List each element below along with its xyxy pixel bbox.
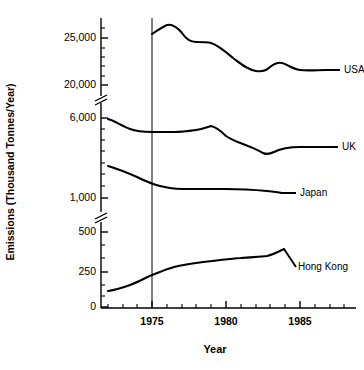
x-axis-major-ticks — [152, 301, 300, 308]
series-line-usa — [152, 25, 326, 71]
x-tick-label: 1980 — [214, 315, 238, 327]
series-leader-hong-kong — [284, 249, 296, 267]
series-hong-kong: Hong Kong — [108, 249, 348, 291]
series-line-uk — [108, 119, 322, 154]
y-axis-title-text: Emissions (Thousand Tonnes/Year) — [4, 83, 16, 260]
y-tick-label: 1,000 — [70, 191, 96, 203]
y-tick-label: 20,000 — [64, 78, 96, 90]
x-axis: 1975 1980 1985 Year — [101, 301, 356, 355]
y-axis: 25,000 20,000 6,000 1,000 500 250 0 — [64, 18, 108, 312]
y-axis-major-ticks — [101, 38, 108, 307]
series-uk: UK — [108, 119, 356, 154]
chart-canvas: Emissions (Thousand Tonnes/Year) — [0, 0, 364, 370]
series-usa: USA — [152, 25, 364, 75]
series-japan: Japan — [108, 166, 327, 198]
x-axis-title-text: Year — [203, 343, 227, 355]
x-axis-tick-labels: 1975 1980 1985 — [140, 315, 312, 327]
series-label-japan: Japan — [300, 187, 327, 198]
x-tick-label: 1975 — [140, 315, 164, 327]
series-label-uk: UK — [342, 141, 356, 152]
series-line-japan — [108, 166, 282, 193]
y-tick-label: 6,000 — [70, 111, 96, 123]
y-tick-label: 0 — [90, 300, 96, 312]
x-tick-label: 1985 — [288, 315, 312, 327]
y-axis-title: Emissions (Thousand Tonnes/Year) — [4, 83, 16, 260]
y-tick-label: 500 — [78, 225, 96, 237]
emissions-line-chart: Emissions (Thousand Tonnes/Year) — [0, 0, 364, 370]
series-label-usa: USA — [344, 64, 364, 75]
y-axis-break-lower — [95, 213, 107, 223]
y-tick-label: 250 — [78, 265, 96, 277]
y-axis-tick-labels: 25,000 20,000 6,000 1,000 500 250 0 — [64, 31, 96, 312]
series-line-hong-kong — [108, 249, 284, 291]
y-tick-label: 25,000 — [64, 31, 96, 43]
series-label-hong-kong: Hong Kong — [298, 261, 348, 272]
